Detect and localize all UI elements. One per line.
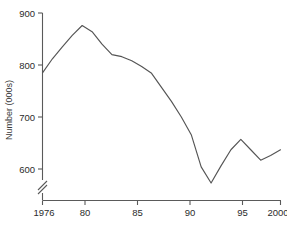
chart-canvas: Number (000s) 900 800 700 600	[0, 0, 287, 226]
x-tick-label-2000: 2000	[267, 207, 287, 218]
x-tick-label-85: 85	[132, 207, 143, 218]
x-tick-label-1976: 1976	[33, 207, 54, 218]
data-series-line	[43, 25, 281, 183]
x-tick-marks	[43, 201, 281, 206]
y-tick-label-800: 800	[19, 60, 35, 71]
y-tick-marks	[38, 13, 43, 169]
x-tick-label-80: 80	[80, 207, 91, 218]
y-tick-label-900: 900	[19, 8, 35, 19]
y-axis-title: Number (000s)	[4, 80, 14, 140]
x-tick-label-90: 90	[185, 207, 196, 218]
y-axis-break-icon	[38, 181, 47, 194]
line-chart: Number (000s) 900 800 700 600	[0, 0, 287, 226]
y-tick-label-600: 600	[19, 164, 35, 175]
y-tick-label-700: 700	[19, 112, 35, 123]
x-tick-label-95: 95	[237, 207, 248, 218]
